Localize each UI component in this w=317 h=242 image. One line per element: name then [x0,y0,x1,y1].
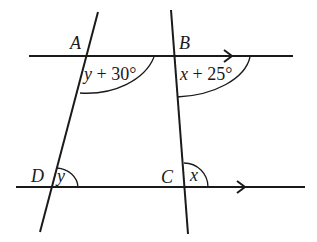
angle-label-c: x [189,165,198,185]
angle-label-a: y + 30° [82,64,136,84]
angle-b-var: x [179,64,188,84]
angle-a-op: + [92,64,111,84]
angle-b-op: + [188,64,207,84]
point-label-a: A [69,33,82,53]
point-label-d: D [30,166,44,186]
transversal-ad [40,12,98,232]
point-label-b: B [179,33,190,53]
point-label-c: C [161,167,174,187]
geometry-diagram: A B D C y + 30° x + 25° y x [0,0,317,242]
angle-label-b: x + 25° [179,64,232,84]
angle-b-num: 25° [207,64,232,84]
angle-label-d: y [55,166,65,186]
angle-a-var: y [82,64,92,84]
angle-a-num: 30° [111,64,136,84]
